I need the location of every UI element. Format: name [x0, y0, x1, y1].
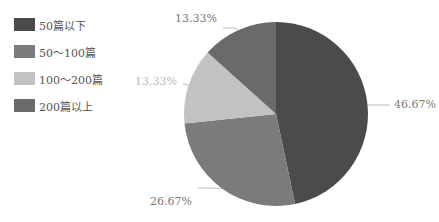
leader-line: [223, 28, 239, 30]
pie-slice: [276, 22, 368, 204]
pie-chart: 46.67%26.67%13.33%13.33%: [0, 0, 439, 222]
pie-slice: [184, 114, 295, 206]
slice-label: 13.33%: [175, 12, 217, 25]
leader-line: [183, 84, 189, 86]
slice-label: 26.67%: [150, 195, 192, 208]
leader-line: [367, 104, 390, 105]
slice-label: 46.67%: [394, 98, 436, 111]
slice-label: 13.33%: [135, 75, 177, 88]
